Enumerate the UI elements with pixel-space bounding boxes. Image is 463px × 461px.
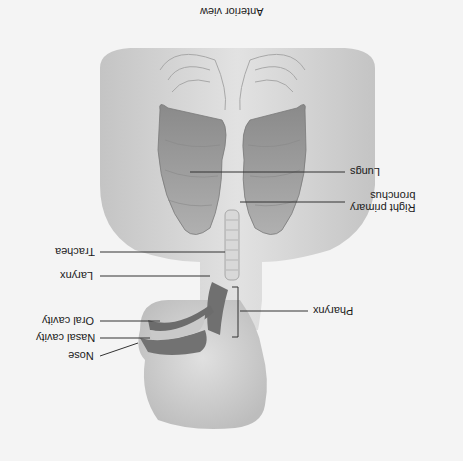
oral-cavity-label: Oral cavity (42, 315, 94, 327)
nasal-cavity-label: Nasal cavity (36, 332, 95, 344)
larynx-label: Larynx (60, 270, 93, 282)
nose-leader (100, 343, 138, 356)
nose-label: Nose (68, 350, 94, 362)
respiratory-diagram: Anterior view Lungs Right primary bronch… (0, 0, 463, 461)
title-label: Anterior view (200, 6, 264, 18)
pharynx-label: Pharynx (313, 305, 353, 317)
lungs-label: Lungs (350, 166, 380, 178)
trachea-label: Trachea (55, 246, 95, 258)
anatomy-illustration (0, 0, 463, 461)
trachea-illustration (225, 210, 239, 280)
right-primary-bronchus-label: Right primary bronchus (350, 190, 415, 214)
